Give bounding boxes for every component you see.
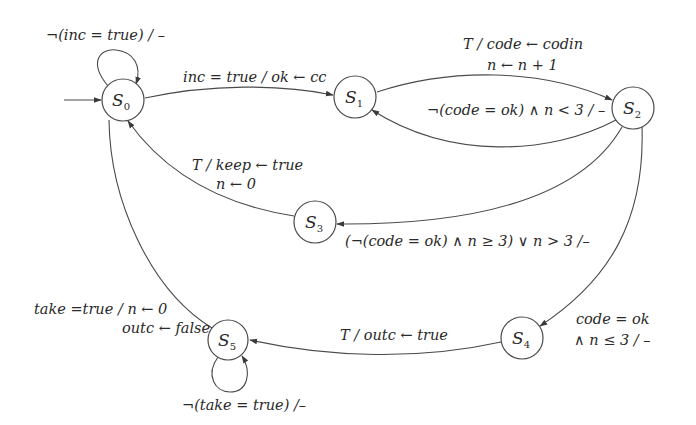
label-s1-to-s2-line2b: n ← n + 1 — [487, 57, 558, 73]
label-s5-self-loop: ¬(take = true) /– — [182, 397, 306, 413]
label-s2-to-s4-line2: ∧ n ≤ 3 / – — [574, 332, 651, 348]
state-s1: S1 — [334, 76, 376, 118]
label-s2-to-s1: ¬(code = ok) ∧ n < 3 / – — [427, 102, 605, 118]
state-s5: S5 — [208, 320, 248, 360]
label-s1-to-s2-line1: T / code ← codin — [463, 36, 583, 52]
label-s5-to-s0-line1: take =true / n ← 0 — [34, 301, 167, 317]
label-s0-to-s1: inc = true / ok ← cc — [183, 69, 326, 85]
state-s4: S4 — [501, 317, 543, 359]
label-s0-self-loop: ¬(inc = true) / – — [46, 27, 165, 43]
edge-s0-to-s1 — [145, 87, 333, 98]
edge-s2-to-s4 — [540, 127, 642, 326]
label-s3-to-s0-line1: T / keep ← true — [192, 157, 303, 173]
label-s2-to-s3: (¬(code = ok) ∧ n ≥ 3) ∨ n > 3 /– — [345, 233, 590, 249]
label-s5-to-s0-line2: outc ← false — [122, 320, 210, 336]
edge-s5-to-s0 — [109, 120, 212, 328]
label-s3-to-s0-line2: n ← 0 — [216, 176, 256, 192]
edge-s2-to-s3 — [337, 127, 622, 224]
state-s0: S0 — [102, 79, 144, 121]
state-s3: S3 — [294, 201, 336, 243]
state-diagram: S0 S1 S2 S3 S4 S5 ¬(inc = true) / – inc … — [0, 0, 696, 425]
label-s2-to-s4-line1: code = ok — [576, 311, 650, 327]
edge-s1-to-s2 — [377, 75, 612, 100]
state-s2: S2 — [612, 87, 654, 129]
edge-s5-self-loop — [212, 356, 247, 392]
label-s4-to-s5: T / outc ← true — [340, 327, 448, 343]
